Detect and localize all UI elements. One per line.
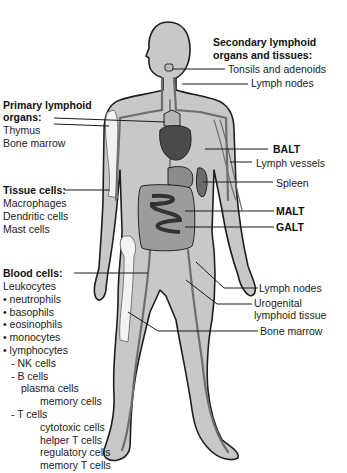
label-spleen: Spleen bbox=[276, 177, 309, 190]
label-cytotoxic-cells: cytotoxic cells bbox=[40, 421, 105, 434]
label-basophils: • basophils bbox=[3, 306, 54, 319]
tonsils-shape bbox=[165, 64, 173, 71]
label-neutrophils: • neutrophils bbox=[3, 293, 61, 306]
secondary-lymphoid-heading: Secondary lymphoid bbox=[213, 36, 316, 49]
label-memory-cells: memory cells bbox=[40, 395, 102, 408]
label-regulatory-cells: regulatory cells bbox=[40, 446, 111, 459]
label-bone-marrow-leg: Bone marrow bbox=[260, 325, 322, 338]
label-dendritic-cells: Dendritic cells bbox=[3, 210, 68, 223]
label-plasma-cells: plasma cells bbox=[21, 382, 79, 395]
secondary-lymphoid-heading-2: organs and tissues: bbox=[213, 49, 312, 62]
primary-lymphoid-heading-2: organs: bbox=[3, 111, 42, 124]
label-galt: GALT bbox=[276, 221, 304, 234]
label-leukocytes: Leukocytes bbox=[3, 280, 56, 293]
label-lymph-nodes-bottom: Lymph nodes bbox=[259, 282, 322, 295]
label-macrophages: Macrophages bbox=[3, 197, 67, 210]
label-balt: BALT bbox=[273, 143, 300, 156]
label-helper-t-cells: helper T cells bbox=[40, 434, 102, 447]
label-urogenital: Urogenital bbox=[254, 297, 302, 310]
blood-cells-heading: Blood cells: bbox=[3, 267, 63, 280]
label-b-cells: - B cells bbox=[3, 370, 48, 383]
label-urogenital-2: lymphoid tissue bbox=[254, 309, 326, 322]
primary-lymphoid-heading: Primary lymphoid bbox=[3, 99, 92, 112]
label-thymus: Thymus bbox=[3, 124, 40, 137]
label-nk-cells: - NK cells bbox=[3, 357, 56, 370]
label-bone-marrow-primary: Bone marrow bbox=[3, 137, 65, 150]
tissue-cells-heading: Tissue cells: bbox=[3, 184, 66, 197]
label-eosinophils: • eosinophils bbox=[3, 318, 62, 331]
label-mast-cells: Mast cells bbox=[3, 223, 50, 236]
label-t-cells: - T cells bbox=[3, 408, 47, 421]
label-lymph-nodes-top: Lymph nodes bbox=[251, 77, 314, 90]
label-lymph-vessels: Lymph vessels bbox=[256, 157, 325, 170]
label-tonsils-adenoids: Tonsils and adenoids bbox=[228, 63, 326, 76]
label-lymphocytes: • lymphocytes bbox=[3, 344, 68, 357]
label-monocytes: • monocytes bbox=[3, 331, 60, 344]
label-malt: MALT bbox=[276, 205, 304, 218]
label-memory-t-cells: memory T cells bbox=[40, 459, 111, 472]
